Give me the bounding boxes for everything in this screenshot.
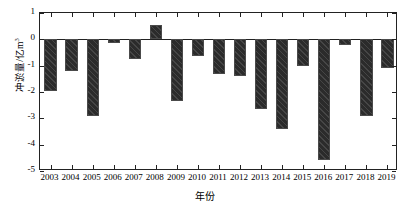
y-tick-label: 1 (31, 7, 36, 16)
x-tick-mark (72, 165, 73, 169)
x-tick-mark (156, 13, 157, 17)
y-tick-mark (40, 145, 44, 146)
y-tick-mark (40, 39, 44, 40)
bar-2018 (360, 39, 372, 115)
y-tick-mark (40, 118, 44, 119)
chart-figure: 冲淤量/亿m3 10-1-2-3-4-5 2003200420052006200… (0, 0, 410, 212)
y-tick-mark (392, 145, 396, 146)
x-tick-mark (324, 165, 325, 169)
y-tick-mark (392, 13, 396, 14)
x-tick-mark (240, 13, 241, 17)
x-tick-mark (282, 13, 283, 17)
x-tick-mark (198, 13, 199, 17)
x-axis-title: 年份 (0, 191, 410, 203)
x-tick-label: 2019 (371, 172, 401, 182)
y-tick-mark (392, 39, 396, 40)
y-tick-label: -2 (28, 86, 36, 95)
x-tick-mark (303, 165, 304, 169)
x-tick-mark (345, 13, 346, 17)
bar-2013 (255, 39, 267, 109)
bar-2005 (87, 39, 99, 115)
bar-2017 (339, 39, 351, 44)
x-tick-mark (51, 13, 52, 17)
x-tick-mark (324, 13, 325, 17)
x-tick-mark (261, 165, 262, 169)
x-tick-mark (303, 13, 304, 17)
bar-2019 (381, 39, 393, 68)
y-tick-label: 0 (31, 33, 36, 42)
x-tick-mark (261, 13, 262, 17)
plot-area (39, 12, 397, 170)
x-tick-mark (240, 165, 241, 169)
x-tick-mark (51, 165, 52, 169)
x-tick-mark (177, 165, 178, 169)
x-tick-mark (135, 165, 136, 169)
y-tick-mark (392, 92, 396, 93)
y-tick-label: -3 (28, 112, 36, 121)
y-tick-label: -1 (28, 60, 36, 69)
y-tick-mark (40, 13, 44, 14)
y-tick-mark (392, 118, 396, 119)
y-tick-mark (40, 66, 44, 67)
y-axis-title-text: 冲淤量/亿m (15, 42, 25, 92)
bar-2009 (171, 39, 183, 101)
y-axis-title-exponent: 3 (13, 38, 20, 41)
bar-2006 (108, 39, 120, 43)
x-tick-mark (387, 13, 388, 17)
x-tick-mark (177, 13, 178, 17)
x-tick-mark (366, 165, 367, 169)
bar-2015 (297, 39, 309, 65)
bar-2004 (65, 39, 77, 71)
x-tick-mark (114, 165, 115, 169)
x-tick-mark (366, 13, 367, 17)
x-tick-mark (345, 165, 346, 169)
bar-2003 (44, 39, 56, 90)
y-tick-mark (40, 92, 44, 93)
x-tick-mark (219, 165, 220, 169)
x-tick-mark (282, 165, 283, 169)
bar-2014 (276, 39, 288, 129)
x-tick-mark (387, 165, 388, 169)
x-tick-mark (93, 165, 94, 169)
y-tick-mark (392, 66, 396, 67)
x-tick-mark (72, 13, 73, 17)
x-tick-mark (135, 13, 136, 17)
bar-2010 (192, 39, 204, 56)
x-tick-mark (93, 13, 94, 17)
bar-2016 (318, 39, 330, 160)
y-tick-label: -4 (28, 139, 36, 148)
y-axis-title: 冲淤量/亿m3 (10, 10, 24, 120)
bar-2012 (234, 39, 246, 76)
bar-2008 (150, 25, 162, 39)
bar-2011 (213, 39, 225, 73)
bar-2007 (129, 39, 141, 59)
x-tick-mark (219, 13, 220, 17)
x-tick-mark (156, 165, 157, 169)
x-tick-mark (114, 13, 115, 17)
x-tick-mark (198, 165, 199, 169)
